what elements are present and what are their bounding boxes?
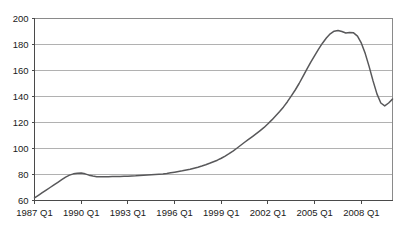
y-axis-label-120: 120 bbox=[13, 117, 29, 128]
line-chart: 6080100120140160180200 1987 Q11990 Q1199… bbox=[0, 0, 406, 238]
x-axis-label-1: 1990 Q1 bbox=[63, 207, 99, 218]
x-axis-label-5: 2002 Q1 bbox=[250, 207, 286, 218]
x-axis-label-3: 1996 Q1 bbox=[156, 207, 192, 218]
y-axis-label-160: 160 bbox=[13, 65, 29, 76]
chart-background bbox=[0, 0, 406, 238]
x-axis-label-0: 1987 Q1 bbox=[16, 207, 52, 218]
x-axis-label-4: 1999 Q1 bbox=[203, 207, 239, 218]
y-axis-label-200: 200 bbox=[13, 13, 29, 24]
x-axis-label-6: 2005 Q1 bbox=[296, 207, 332, 218]
y-axis-label-60: 60 bbox=[18, 195, 29, 206]
x-axis-label-2: 1993 Q1 bbox=[110, 207, 146, 218]
y-axis-label-100: 100 bbox=[13, 143, 29, 154]
x-axis-label-7: 2008 Q1 bbox=[343, 207, 379, 218]
chart-container: 6080100120140160180200 1987 Q11990 Q1199… bbox=[0, 0, 406, 238]
y-axis-label-80: 80 bbox=[18, 169, 29, 180]
y-axis-label-180: 180 bbox=[13, 39, 29, 50]
y-axis-label-140: 140 bbox=[13, 91, 29, 102]
